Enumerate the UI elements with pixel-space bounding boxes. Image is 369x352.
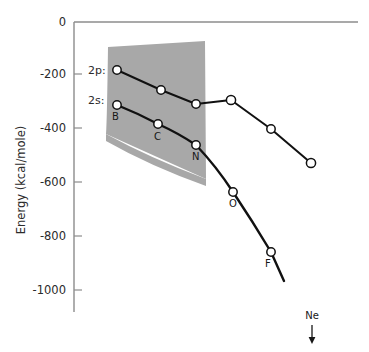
point-label-o: O [229,198,237,209]
series-label-2s: 2s: [88,94,104,107]
data-point-2s-f[interactable] [267,248,275,256]
y-tick-label-800: -800 [40,229,66,243]
data-point-2s-o[interactable] [229,188,237,196]
y-tick-label-200: -200 [40,67,66,81]
point-label-n: N [192,151,199,162]
data-point-2s-c[interactable] [154,120,162,128]
point-label-b: B [112,111,119,122]
shaded-region [106,41,206,179]
data-point-2s-n[interactable] [192,141,200,149]
data-point-2p-ne[interactable] [306,158,315,167]
data-point-2p-n[interactable] [192,100,200,108]
data-point-2p-f[interactable] [267,125,275,133]
y-tick-label-400: -400 [40,121,66,135]
series-label-2p: 2p: [88,64,106,77]
data-point-2p-b[interactable] [113,66,121,74]
y-tick-label-0: 0 [59,15,66,29]
data-point-2p-c[interactable] [157,86,165,94]
y-axis-title: Energy (kcal/mole) [14,126,28,235]
y-tick-label-1000: -1000 [33,283,66,297]
annotation-arrowhead-ne-icon [309,337,316,344]
annotation-label-ne: Ne [305,310,319,321]
point-label-c: C [154,131,161,142]
data-point-2s-b[interactable] [113,101,121,109]
data-point-2p-o[interactable] [226,95,235,104]
chart-canvas: 0 -200 -400 -600 -800 -1000 Energy (kcal… [0,0,369,352]
point-label-f: F [265,258,271,269]
y-tick-label-600: -600 [40,175,66,189]
energy-level-chart: 0 -200 -400 -600 -800 -1000 Energy (kcal… [0,0,369,352]
